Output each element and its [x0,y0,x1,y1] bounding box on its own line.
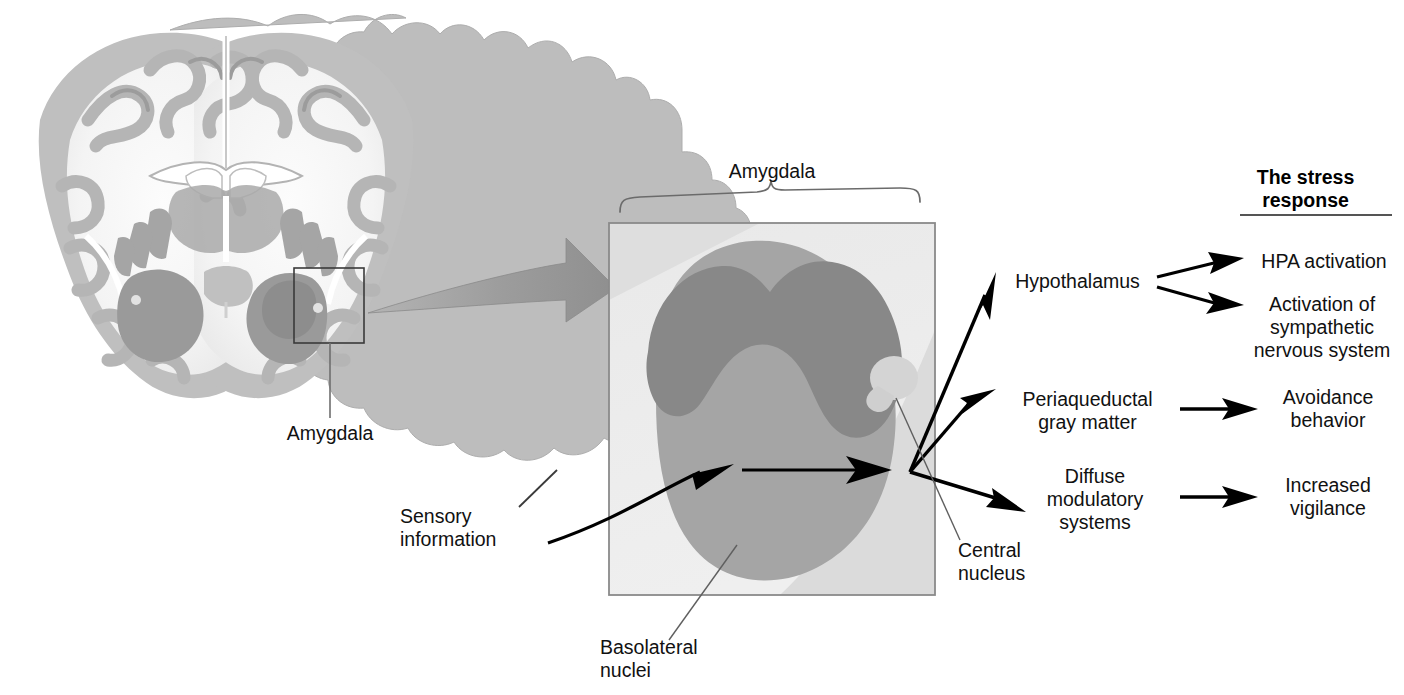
outcome-sympathetic-activation-label: Activation of sympathetic nervous system [1238,293,1404,362]
amygdala-right-basolateral [262,280,317,338]
basolateral-nuclei-label: Basolateral nuclei [600,636,770,682]
target-periaqueductal-gray-label: Periaqueductal gray matter [995,388,1180,434]
stress-response-header-line2: response [1218,189,1393,212]
amygdala-inset [609,223,935,595]
sensory-information-label: Sensory information [400,505,560,551]
amygdala-right-speck [313,303,323,313]
third-ventricle [223,196,229,262]
figure-canvas: Amygdala Amygdala Sensory information Ba… [0,0,1404,695]
inset-amygdala-bracket-label: Amygdala [692,160,852,183]
sensory-leader [519,470,557,507]
outcome-arrows [1157,252,1258,508]
target-diffuse-modulatory-label: Diffuse modulatory systems [1020,465,1170,534]
outcome-hpa-activation-label: HPA activation [1244,250,1404,273]
amygdala-left-speck [131,295,141,305]
stress-response-underline [1240,214,1392,216]
brain-section-layer [0,0,1404,695]
central-nucleus-label: Central nucleus [958,539,1108,585]
stress-response-header-line1: The stress [1218,166,1393,189]
brain-amygdala-label: Amygdala [255,422,405,445]
outcome-increased-vigilance-label: Increased vigilance [1258,474,1398,520]
amygdala-left [117,270,203,362]
target-hypothalamus-label: Hypothalamus [995,270,1160,293]
outcome-avoidance-behavior-label: Avoidance behavior [1258,386,1398,432]
midbrain [204,266,253,307]
